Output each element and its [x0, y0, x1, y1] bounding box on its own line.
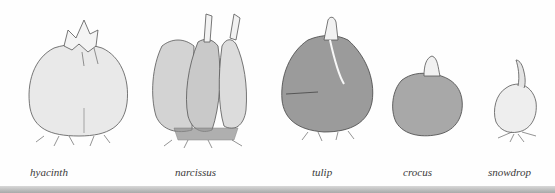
crocus-bulb-drawing	[388, 52, 468, 142]
snowdrop-bulb-drawing	[478, 56, 553, 146]
caption-narcissus: narcissus	[175, 166, 216, 178]
narcissus-bulb-drawing	[148, 6, 258, 151]
caption-tulip: tulip	[312, 166, 332, 178]
caption-hyacinth: hyacinth	[30, 166, 68, 178]
hyacinth-bulb-drawing	[24, 8, 134, 148]
caption-crocus: crocus	[403, 166, 432, 178]
caption-snowdrop: snowdrop	[488, 166, 531, 178]
bottom-divider-bar	[0, 186, 555, 193]
bulb-illustration-plate: hyacinth narcissus tulip crocus snowdrop	[0, 0, 555, 186]
tulip-bulb-drawing	[278, 14, 378, 144]
